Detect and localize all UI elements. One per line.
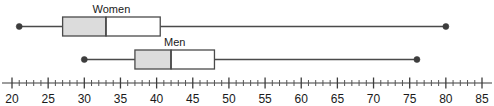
x-axis-tick-label: 85 <box>475 92 489 105</box>
box-plot-figure: Women Men 2025303540455055606570758085 <box>0 0 494 105</box>
box-women-median-to-q3 <box>106 17 160 36</box>
series-label-women: Women <box>93 3 131 15</box>
series-group-men: Men <box>81 36 420 69</box>
endpoint-dot-men-min <box>81 57 87 63</box>
series-label-men: Men <box>164 36 185 48</box>
x-axis-tick-label: 25 <box>41 92 55 105</box>
x-axis-tick-label: 35 <box>114 92 128 105</box>
box-women-q1-to-median <box>63 17 106 36</box>
x-axis-tick-label: 45 <box>186 92 200 105</box>
x-axis-tick-labels: 2025303540455055606570758085 <box>5 92 489 105</box>
box-plot-canvas: Women Men 2025303540455055606570758085 <box>0 0 494 105</box>
x-axis: 2025303540455055606570758085 <box>2 78 492 106</box>
endpoint-dot-men-max <box>414 57 420 63</box>
x-axis-tick-label: 50 <box>222 92 236 105</box>
x-axis-tick-label: 65 <box>331 92 345 105</box>
box-men-q1-to-median <box>135 50 171 69</box>
x-axis-tick-label: 75 <box>403 92 417 105</box>
x-axis-tick-label: 30 <box>78 92 92 105</box>
x-axis-tick-label: 40 <box>150 92 164 105</box>
x-axis-tick-label: 60 <box>295 92 309 105</box>
box-men-median-to-q3 <box>171 50 214 69</box>
x-axis-tick-label: 80 <box>439 92 453 105</box>
endpoint-dot-women-max <box>443 24 449 30</box>
x-axis-tick-label: 70 <box>367 92 381 105</box>
x-axis-tick-label: 55 <box>258 92 272 105</box>
x-axis-tick-label: 20 <box>5 92 19 105</box>
endpoint-dot-women-min <box>16 24 22 30</box>
series-group-women: Women <box>16 3 449 36</box>
